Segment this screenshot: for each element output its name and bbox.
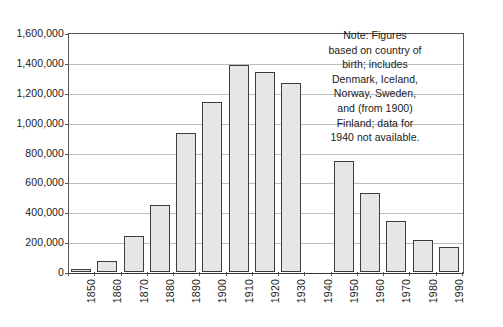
x-tickmark xyxy=(436,272,437,276)
x-tickmark xyxy=(226,272,227,276)
bar-1930[interactable] xyxy=(281,83,301,272)
x-tickmark xyxy=(304,272,305,276)
bar-1920[interactable] xyxy=(255,72,275,272)
bar-slot-1980 xyxy=(409,33,435,272)
x-tickmark xyxy=(147,272,148,276)
x-tickmark xyxy=(121,272,122,276)
bar-slot-1890 xyxy=(173,33,199,272)
x-tickmark xyxy=(357,272,358,276)
y-axis: 0200,000400,000600,000800,0001,000,0001,… xyxy=(0,0,68,327)
bar-1970[interactable] xyxy=(386,221,406,272)
x-axis: 1850186018701880189019001910192019301940… xyxy=(68,272,462,327)
bar-slot-1990 xyxy=(436,33,462,272)
y-tick-label: 1,400,000 xyxy=(16,58,64,69)
x-tickmark xyxy=(462,272,463,276)
y-tick-label: 600,000 xyxy=(25,177,64,188)
x-tickmark xyxy=(94,272,95,276)
x-tick-label-1990: 1990 xyxy=(454,279,465,303)
bar-chart: 0200,000400,000600,000800,0001,000,0001,… xyxy=(0,0,503,327)
bar-slot-1900 xyxy=(199,33,225,272)
x-tick-label-1910: 1910 xyxy=(244,279,255,303)
x-tick-label-1900: 1900 xyxy=(217,279,228,303)
y-tick-label: 1,600,000 xyxy=(16,28,64,39)
x-tickmark xyxy=(331,272,332,276)
bar-slot-1850 xyxy=(68,33,94,272)
bar-slot-1960 xyxy=(357,33,383,272)
x-tickmark xyxy=(278,272,279,276)
bar-slot-1940 xyxy=(304,33,330,272)
bar-slot-1930 xyxy=(278,33,304,272)
x-tickmark xyxy=(173,272,174,276)
bar-1960[interactable] xyxy=(360,193,380,272)
y-tick-label: 400,000 xyxy=(25,207,64,218)
x-tick-label-1860: 1860 xyxy=(112,279,123,303)
x-tick-label-1920: 1920 xyxy=(270,279,281,303)
x-tickmark xyxy=(252,272,253,276)
x-tickmark xyxy=(409,272,410,276)
bar-1910[interactable] xyxy=(229,65,249,272)
bar-slot-1950 xyxy=(331,33,357,272)
bar-1890[interactable] xyxy=(176,133,196,272)
x-tickmark xyxy=(383,272,384,276)
x-tick-label-1960: 1960 xyxy=(375,279,386,303)
x-tickmark xyxy=(199,272,200,276)
bar-1990[interactable] xyxy=(439,247,459,272)
bar-1860[interactable] xyxy=(97,261,117,272)
bar-1880[interactable] xyxy=(150,205,170,272)
x-tickmark xyxy=(68,272,69,276)
x-tick-label-1850: 1850 xyxy=(86,279,97,303)
y-tick-label: 200,000 xyxy=(25,237,64,248)
bar-slot-1880 xyxy=(147,33,173,272)
bar-slot-1910 xyxy=(226,33,252,272)
x-tick-label-1950: 1950 xyxy=(349,279,360,303)
bars-layer xyxy=(68,33,462,272)
bar-slot-1860 xyxy=(94,33,120,272)
bar-1900[interactable] xyxy=(202,102,222,272)
bar-slot-1920 xyxy=(252,33,278,272)
bar-1980[interactable] xyxy=(413,240,433,272)
bar-1950[interactable] xyxy=(334,161,354,272)
x-tick-label-1970: 1970 xyxy=(401,279,412,303)
x-tick-label-1890: 1890 xyxy=(191,279,202,303)
bar-slot-1970 xyxy=(383,33,409,272)
x-tick-label-1980: 1980 xyxy=(428,279,439,303)
x-tick-label-1940: 1940 xyxy=(323,279,334,303)
bar-slot-1870 xyxy=(121,33,147,272)
bar-1870[interactable] xyxy=(124,236,144,272)
y-tick-label: 1,000,000 xyxy=(16,117,64,128)
x-tick-label-1930: 1930 xyxy=(296,279,307,303)
x-tick-label-1880: 1880 xyxy=(165,279,176,303)
x-tick-label-1870: 1870 xyxy=(139,279,150,303)
y-tick-label: 1,200,000 xyxy=(16,88,64,99)
y-tick-label: 0 xyxy=(58,267,64,278)
y-tick-label: 800,000 xyxy=(25,147,64,158)
